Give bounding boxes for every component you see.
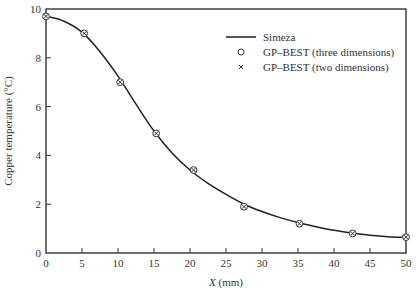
- legend-label: Simeza: [263, 31, 295, 43]
- y-tick-label: 10: [30, 3, 42, 15]
- x-tick-label: 5: [79, 257, 85, 269]
- y-tick-label: 2: [36, 198, 42, 210]
- y-tick-label: 6: [36, 101, 42, 113]
- x-tick-label: 10: [113, 257, 125, 269]
- x-tick-label: 25: [221, 257, 233, 269]
- legend-cross-icon: [239, 65, 243, 69]
- chart: 051015202530354045500246810 SimezaGP–BES…: [0, 0, 416, 292]
- axis-ticks: 051015202530354045500246810: [30, 3, 412, 269]
- x-tick-label: 35: [293, 257, 305, 269]
- legend-circle-icon: [238, 49, 244, 55]
- x-axis-title: X (mm): [208, 276, 243, 289]
- legend: SimezaGP–BEST (three dimensions)GP–BEST …: [226, 31, 395, 74]
- x-tick-label: 45: [365, 257, 377, 269]
- y-tick-label: 8: [36, 52, 42, 64]
- x-tick-label: 15: [149, 257, 161, 269]
- x-tick-label: 30: [257, 257, 269, 269]
- y-axis-title: Copper temperature (°C): [2, 76, 15, 186]
- x-tick-label: 20: [185, 257, 197, 269]
- legend-label: GP–BEST (three dimensions): [263, 46, 395, 59]
- x-tick-label: 50: [401, 257, 413, 269]
- y-tick-label: 4: [36, 149, 42, 161]
- legend-label: GP–BEST (two dimensions): [263, 61, 389, 74]
- x-tick-label: 0: [43, 257, 49, 269]
- y-tick-label: 0: [36, 247, 42, 259]
- x-tick-label: 40: [329, 257, 341, 269]
